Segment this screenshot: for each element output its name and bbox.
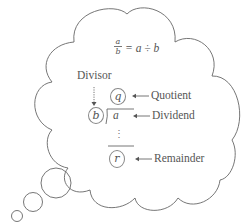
quotient-label: Quotient (151, 89, 191, 101)
fraction-numerator: a (113, 37, 123, 46)
fraction-a-over-b: a b (113, 37, 123, 56)
divisor-symbol: b (88, 107, 104, 124)
remainder-label: Remainder (154, 152, 204, 164)
thought-cloud (0, 0, 245, 223)
dividend-label: Dividend (152, 109, 195, 121)
thought-bubble-medium (24, 193, 43, 212)
cloud-outline (35, 8, 240, 211)
dividend-symbol: a (113, 109, 119, 121)
thought-bubble-large (41, 168, 71, 198)
quotient-symbol: q (110, 88, 126, 105)
ellipsis: ⋮ (114, 128, 124, 139)
thought-bubble-small (12, 211, 23, 222)
fraction-denominator: b (113, 47, 123, 56)
remainder-symbol: r (109, 150, 125, 168)
equation-rhs: = a ÷ b (125, 42, 159, 54)
divisor-label: Divisor (77, 69, 112, 81)
